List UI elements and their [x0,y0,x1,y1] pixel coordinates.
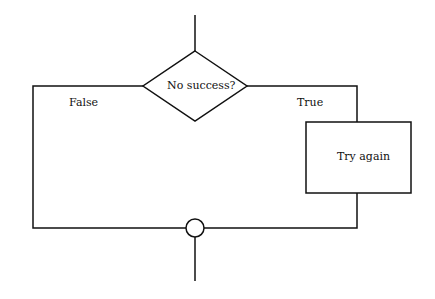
decision-label: No success? [167,79,236,92]
false-branch-label: False [69,96,98,109]
true-branch-label: True [297,96,323,109]
merge-junction [186,219,204,237]
return-connector [204,193,357,228]
process-label: Try again [337,150,390,163]
false-branch-connector [33,86,186,228]
